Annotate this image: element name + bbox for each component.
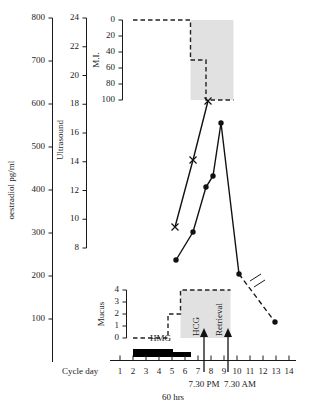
mi-tick: 20 bbox=[106, 30, 116, 40]
hmg-bar-thin bbox=[173, 352, 191, 357]
ultrasound-tick: 18 bbox=[70, 98, 80, 108]
ultrasound-tick: 20 bbox=[70, 70, 80, 80]
cycle-day-tick: 12 bbox=[259, 366, 268, 376]
oestradiol-point bbox=[210, 173, 215, 178]
oestradiol-point bbox=[272, 319, 277, 324]
oestradiol-tick: 700 bbox=[32, 55, 46, 65]
oestradiol-point bbox=[203, 184, 208, 189]
oestradiol-tick: 300 bbox=[32, 227, 46, 237]
ultrasound-tick: 8 bbox=[75, 242, 80, 252]
hcg-time-label: 7.30 PM bbox=[188, 379, 219, 389]
mi-axis-title: M.I. bbox=[91, 52, 101, 68]
mi-tick: 100 bbox=[102, 94, 116, 104]
ultrasound-tick: 16 bbox=[70, 127, 80, 137]
cycle-day-tick: 6 bbox=[183, 366, 188, 376]
ultrasound-line bbox=[175, 101, 208, 227]
cycle-day-tick: 11 bbox=[246, 366, 255, 376]
ultrasound-tick: 10 bbox=[70, 213, 80, 223]
oestradiol-axis: 800 700 600 500 400 300 200 100 oestradi… bbox=[6, 12, 53, 362]
oestradiol-line bbox=[176, 123, 239, 274]
hmg-label: HMG bbox=[150, 333, 172, 343]
hmg-bar-thick bbox=[133, 349, 173, 357]
mi-tick: 80 bbox=[106, 78, 116, 88]
duration-label: 60 hrs bbox=[162, 392, 185, 402]
oestradiol-tick: 400 bbox=[32, 184, 46, 194]
mi-axis: 0 20 40 60 80 100 M.I. bbox=[91, 14, 123, 104]
oestradiol-tick: 100 bbox=[32, 313, 46, 323]
mucus-tick: 4 bbox=[115, 284, 120, 294]
cycle-day-tick: 9 bbox=[222, 366, 227, 376]
cycle-day-tick: 3 bbox=[144, 366, 149, 376]
oestradiol-axis-title: oestradiol pg/ml bbox=[6, 160, 16, 219]
oestradiol-tick: 600 bbox=[32, 98, 46, 108]
oestradiol-point bbox=[173, 257, 178, 262]
mi-shaded-block bbox=[191, 20, 234, 100]
mucus-tick: 2 bbox=[115, 308, 120, 318]
cycle-day-tick: 1 bbox=[118, 366, 123, 376]
oestradiol-tick: 200 bbox=[32, 270, 46, 280]
mucus-tick: 3 bbox=[115, 296, 120, 306]
hcg-arrow-icon bbox=[200, 328, 208, 372]
oestradiol-tick: 800 bbox=[32, 12, 46, 22]
cycle-day-axis-title: Cycle day bbox=[62, 366, 99, 376]
ultrasound-axis-title: Ultrasound bbox=[55, 120, 65, 160]
axis-break-marker bbox=[250, 274, 265, 287]
oestradiol-tick: 500 bbox=[32, 141, 46, 151]
mucus-tick: 0 bbox=[115, 332, 120, 342]
mucus-tick: 1 bbox=[115, 320, 120, 330]
oestradiol-dashed-continuation bbox=[239, 274, 275, 322]
cycle-day-tick: 8 bbox=[209, 366, 214, 376]
cycle-day-tick: 4 bbox=[157, 366, 162, 376]
hcg-label: HCG bbox=[191, 316, 201, 336]
clinical-timeline-chart: 800 700 600 500 400 300 200 100 oestradi… bbox=[0, 0, 317, 411]
oestradiol-point bbox=[218, 120, 223, 125]
figure-canvas: 800 700 600 500 400 300 200 100 oestradi… bbox=[0, 0, 317, 411]
ultrasound-tick: 12 bbox=[70, 185, 79, 195]
cycle-day-axis: 1 2 3 4 5 6 7 8 9 10 11 12 13 14 Cycle d… bbox=[62, 356, 296, 377]
retrieval-time-label: 7.30 AM bbox=[224, 379, 256, 389]
cycle-day-tick: 7 bbox=[196, 366, 201, 376]
ultrasound-axis: 24 22 20 18 16 14 12 10 8 Ultrasound bbox=[55, 12, 87, 252]
ultrasound-tick: 24 bbox=[70, 12, 80, 22]
cycle-day-tick: 10 bbox=[233, 366, 243, 376]
ultrasound-tick: 22 bbox=[70, 41, 79, 51]
mi-tick: 40 bbox=[106, 46, 116, 56]
cycle-day-tick: 5 bbox=[170, 366, 175, 376]
retrieval-label: Retrieval bbox=[214, 303, 224, 336]
oestradiol-point bbox=[190, 229, 195, 234]
mi-tick: 60 bbox=[106, 62, 116, 72]
cycle-day-tick: 14 bbox=[285, 366, 295, 376]
cycle-day-tick: 2 bbox=[131, 366, 136, 376]
mucus-axis-title: Mucus bbox=[96, 301, 106, 326]
cycle-day-tick: 13 bbox=[272, 366, 282, 376]
mi-tick: 0 bbox=[111, 14, 116, 24]
ultrasound-tick: 14 bbox=[70, 156, 80, 166]
mucus-axis: 4 3 2 1 0 Mucus bbox=[96, 284, 127, 342]
